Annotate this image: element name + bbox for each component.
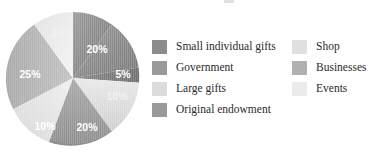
legend-label-original-endowment: Original endowment <box>176 104 271 116</box>
legend-swatch-government <box>152 61 167 75</box>
legend-swatch-large-gifts <box>152 82 167 96</box>
pie-chart-figure: 20% 5% 10% 20% 10% 25% 10% Small individ… <box>0 0 384 154</box>
slice-label-small-individual-gifts: 20% <box>86 43 108 55</box>
pie-chart-svg: 20% 5% 10% 20% 10% 25% 10% <box>5 10 141 146</box>
slice-label-government: 5% <box>115 68 131 80</box>
legend-label-small-individual-gifts: Small individual gifts <box>176 41 276 53</box>
legend-label-large-gifts: Large gifts <box>176 83 226 95</box>
pie-chart: 20% 5% 10% 20% 10% 25% 10% <box>5 10 141 146</box>
slice-label-shop: 10% <box>34 120 56 132</box>
legend-column-left: Small individual gifts Government Large … <box>152 36 276 120</box>
slice-label-large-gifts: 10% <box>106 90 128 102</box>
legend-swatch-businesses <box>292 61 307 75</box>
legend-swatch-original-endowment <box>152 103 167 117</box>
top-edge-artifact <box>224 0 234 3</box>
chart-legend: Small individual gifts Government Large … <box>152 36 384 120</box>
legend-item-businesses[interactable]: Businesses <box>292 57 366 78</box>
legend-item-small-individual-gifts[interactable]: Small individual gifts <box>152 36 276 57</box>
legend-item-large-gifts[interactable]: Large gifts <box>152 78 276 99</box>
legend-swatch-shop <box>292 40 307 54</box>
legend-swatch-events <box>292 82 307 96</box>
slice-label-events: 10% <box>51 27 73 39</box>
legend-label-events: Events <box>316 83 347 95</box>
legend-column-right: Shop Businesses Events <box>292 36 366 99</box>
legend-item-events[interactable]: Events <box>292 78 366 99</box>
slice-label-original-endowment: 20% <box>76 121 98 133</box>
legend-item-shop[interactable]: Shop <box>292 36 366 57</box>
slice-label-businesses: 25% <box>19 68 41 80</box>
legend-label-shop: Shop <box>316 41 340 53</box>
legend-item-original-endowment[interactable]: Original endowment <box>152 99 276 120</box>
legend-item-government[interactable]: Government <box>152 57 276 78</box>
legend-label-government: Government <box>176 62 233 74</box>
legend-label-businesses: Businesses <box>316 62 366 74</box>
legend-swatch-small-individual-gifts <box>152 40 167 54</box>
